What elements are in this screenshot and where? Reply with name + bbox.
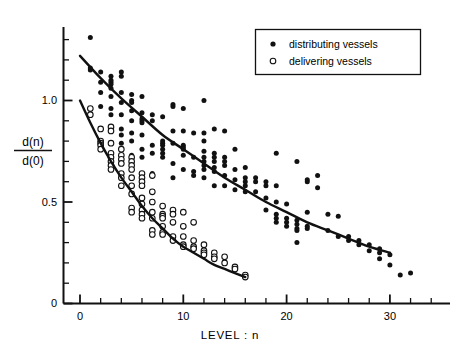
data-point [119, 90, 124, 95]
data-point [201, 242, 207, 248]
data-point [284, 224, 289, 229]
data-point [274, 151, 279, 156]
data-point [201, 130, 206, 135]
data-point [98, 70, 103, 75]
vessel-diameter-scatter-chart: 1.0 0.5 0 0102030 d(n) d(0) LEVEL : n di… [0, 0, 457, 361]
data-point [181, 224, 187, 230]
data-point [315, 185, 320, 190]
data-point [387, 262, 392, 267]
data-point [160, 203, 166, 209]
data-point [284, 202, 289, 207]
data-point [305, 226, 310, 231]
data-point [170, 175, 175, 180]
data-point [274, 200, 279, 205]
data-point [170, 220, 176, 226]
data-point [139, 133, 144, 138]
data-point [232, 187, 237, 192]
data-point [170, 211, 176, 217]
data-point [222, 128, 227, 133]
data-point [212, 159, 217, 164]
data-point [325, 212, 330, 217]
data-point [150, 189, 156, 195]
data-point [88, 35, 93, 40]
data-point [129, 167, 135, 173]
data-point [408, 271, 413, 276]
data-point [108, 140, 114, 146]
data-point [305, 179, 310, 184]
data-point [98, 90, 103, 95]
data-point [119, 161, 125, 167]
data-point [170, 104, 175, 109]
legend-label-delivering-vessels: delivering vessels [289, 55, 372, 67]
x-tick-label-20: 20 [280, 310, 292, 322]
data-point [201, 139, 206, 144]
data-point [160, 232, 166, 238]
data-point [98, 126, 104, 132]
data-point [150, 112, 155, 117]
data-point [181, 106, 186, 111]
data-point [108, 106, 113, 111]
data-point [150, 209, 156, 215]
y-tick-label-0: 0 [51, 297, 57, 309]
data-point [377, 256, 382, 261]
x-axis-title: LEVEL : n [201, 329, 260, 341]
data-point [201, 98, 206, 103]
legend-marker-open-circle-icon [270, 58, 276, 64]
data-point [191, 130, 196, 135]
data-point [108, 112, 113, 117]
data-point [294, 159, 299, 164]
data-point [191, 238, 197, 244]
data-point [211, 256, 217, 262]
data-point [398, 273, 403, 278]
x-tick-label-10: 10 [177, 310, 189, 322]
legend-marker-filled-dot-icon [270, 41, 275, 46]
data-point [181, 167, 186, 172]
y-tick-label-0point5: 0.5 [42, 196, 57, 208]
data-point [139, 147, 144, 152]
data-point [150, 173, 156, 179]
data-point [263, 208, 268, 213]
data-point [181, 153, 186, 158]
data-point [191, 173, 196, 178]
data-point [232, 177, 237, 182]
data-point [274, 183, 279, 188]
data-point [232, 147, 237, 152]
data-point [139, 195, 145, 201]
data-point [139, 155, 144, 160]
y-axis-title-numerator: d(n) [22, 135, 43, 149]
data-point [150, 199, 156, 205]
data-point [129, 118, 134, 123]
data-point [108, 94, 113, 99]
data-point [139, 183, 145, 189]
data-point [274, 220, 279, 225]
data-point [222, 163, 227, 168]
x-tick-label-30: 30 [384, 310, 396, 322]
data-point [201, 175, 206, 180]
data-point [232, 167, 237, 172]
data-point [170, 161, 175, 166]
data-point [119, 74, 124, 79]
data-point [129, 175, 135, 181]
data-point [294, 240, 299, 245]
data-point [139, 120, 144, 125]
legend: distributing vessels delivering vessels [256, 30, 421, 75]
data-point [150, 151, 155, 156]
data-point [191, 220, 197, 226]
data-point [212, 183, 217, 188]
data-point [160, 215, 166, 221]
data-point [119, 126, 124, 131]
data-point [181, 209, 187, 215]
y-tick-label-1: 1.0 [42, 94, 57, 106]
data-point [119, 141, 124, 146]
data-point [222, 254, 228, 260]
data-point [150, 118, 155, 123]
data-point [129, 100, 134, 105]
legend-box [256, 30, 421, 75]
data-point [129, 209, 135, 215]
data-point [160, 114, 165, 119]
data-point [336, 214, 341, 219]
data-point [222, 260, 228, 266]
data-point [160, 155, 165, 160]
data-point [119, 133, 124, 138]
data-point [98, 104, 103, 109]
